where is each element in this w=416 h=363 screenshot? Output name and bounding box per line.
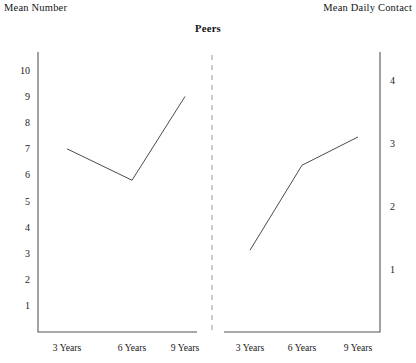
right-panel-category-labels: 3 Years6 Years9 Years [236, 342, 373, 353]
axis-tick-label: 2 [390, 201, 395, 212]
axis-tick-label: 1 [25, 300, 30, 311]
axis-tick-label: 3 [390, 138, 395, 149]
axis-tick-label: 8 [25, 117, 30, 128]
chart-page: Mean Number Mean Daily Contact Peers 123… [0, 0, 416, 363]
axis-tick-label: 2 [25, 274, 30, 285]
right-axis-tick-labels: 1234 [390, 75, 395, 275]
right-panel-axis [224, 52, 380, 332]
chart-plot-area: 12345678910 1234 3 Years6 Years9 Years 3… [0, 0, 416, 363]
left-panel-category-labels: 3 Years6 Years9 Years [53, 342, 200, 353]
category-tick-label: 9 Years [171, 342, 200, 353]
right-panel-series-line [250, 137, 358, 250]
axis-tick-label: 1 [390, 264, 395, 275]
axis-tick-label: 5 [25, 196, 30, 207]
left-panel-series-line [67, 96, 185, 180]
category-tick-label: 3 Years [53, 342, 82, 353]
category-tick-label: 6 Years [118, 342, 147, 353]
left-axis-tick-labels: 12345678910 [20, 65, 30, 312]
axis-tick-label: 4 [25, 222, 30, 233]
left-panel-axis [38, 52, 197, 332]
category-tick-label: 6 Years [288, 342, 317, 353]
axis-tick-label: 10 [20, 65, 30, 76]
category-tick-label: 9 Years [344, 342, 373, 353]
category-tick-label: 3 Years [236, 342, 265, 353]
axis-tick-label: 3 [25, 248, 30, 259]
axis-tick-label: 9 [25, 91, 30, 102]
axis-tick-label: 4 [390, 75, 395, 86]
axis-tick-label: 6 [25, 169, 30, 180]
axis-tick-label: 7 [25, 143, 30, 154]
